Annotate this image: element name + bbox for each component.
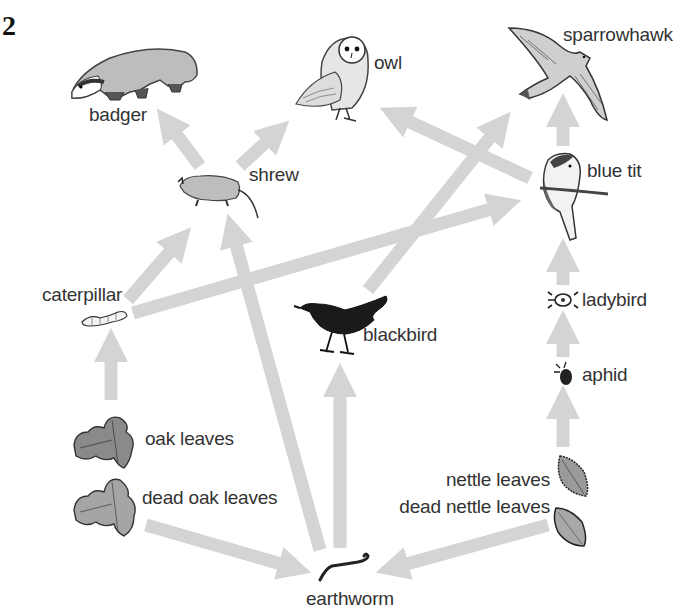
label-shrew: shrew — [249, 164, 299, 186]
label-blackbird: blackbird — [363, 324, 437, 346]
label-dead-nettle-leaves: dead nettle leaves — [399, 496, 550, 518]
arrow-caterpillar-to-shrew — [128, 240, 180, 300]
label-blue-tit: blue tit — [587, 160, 641, 182]
shrew-icon — [178, 176, 258, 218]
label-dead-oak-leaves: dead oak leaves — [142, 487, 277, 509]
label-owl: owl — [374, 52, 402, 74]
label-aphid: aphid — [582, 364, 628, 386]
arrow-deadnettle-to-earthworm — [392, 525, 548, 568]
caterpillar-icon — [82, 312, 127, 327]
label-caterpillar: caterpillar — [42, 284, 122, 306]
label-earthworm: earthworm — [306, 588, 394, 610]
owl-icon — [296, 37, 368, 121]
label-sparrowhawk: sparrowhawk — [563, 24, 673, 46]
nettle-leaf-icon — [558, 456, 587, 496]
arrow-caterpillar-to-bluetit — [133, 205, 505, 313]
label-oak-leaves: oak leaves — [145, 428, 234, 450]
arrow-shrew-to-owl — [240, 132, 277, 166]
aphid-icon — [554, 362, 572, 385]
arrow-shrew-to-badger — [167, 122, 200, 166]
food-web-diagram: 2 — [0, 0, 680, 613]
earthworm-icon — [320, 554, 368, 580]
label-badger: badger — [89, 104, 147, 126]
badger-icon — [72, 49, 197, 100]
ladybird-icon — [548, 292, 578, 308]
label-nettle-leaves: nettle leaves — [446, 469, 550, 491]
dead-nettle-leaf-icon — [554, 508, 585, 546]
dead-oak-leaf-icon — [74, 479, 135, 536]
label-ladybird: ladybird — [582, 289, 647, 311]
food-web-graphics — [0, 0, 680, 613]
arrow-deadoak-to-earthworm — [146, 525, 295, 568]
oak-leaf-icon — [74, 417, 133, 468]
